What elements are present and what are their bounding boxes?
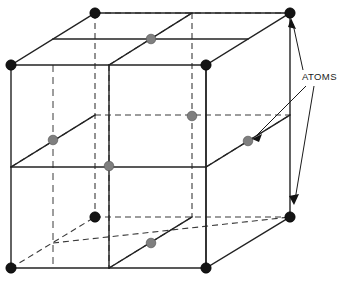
face-center-atoms-group: [48, 34, 253, 248]
corner-atom[interactable]: [90, 8, 100, 18]
face-center-atom[interactable]: [243, 136, 253, 146]
body-center-atom[interactable]: [187, 111, 197, 121]
depth-edge-bottom-right: [206, 217, 290, 268]
callout-leader-corner-top: [293, 24, 303, 70]
callout-leader-corner-bottom: [295, 86, 314, 200]
diagram-canvas: ATOMS: [0, 0, 341, 281]
corner-atom[interactable]: [90, 212, 100, 222]
callout-leaders-group: [256, 24, 314, 200]
corner-atom[interactable]: [285, 8, 295, 18]
atoms-label: ATOMS: [302, 71, 337, 82]
corner-atom[interactable]: [6, 60, 16, 70]
corner-atom[interactable]: [201, 60, 211, 70]
callout-arrowheads-group: [252, 18, 299, 205]
face-center-atom[interactable]: [48, 135, 58, 145]
corner-atom[interactable]: [6, 263, 16, 273]
arrowhead-icon: [288, 18, 296, 29]
face-center-atom[interactable]: [146, 34, 156, 44]
face-center-atom[interactable]: [146, 238, 156, 248]
unit-cell-diagram: ATOMS: [0, 0, 341, 281]
corner-atom[interactable]: [201, 263, 211, 273]
callout-leader-face-center: [256, 86, 306, 136]
inner-box-edges: [192, 13, 206, 268]
face-center-atom[interactable]: [104, 161, 114, 171]
corner-atom[interactable]: [285, 212, 295, 222]
